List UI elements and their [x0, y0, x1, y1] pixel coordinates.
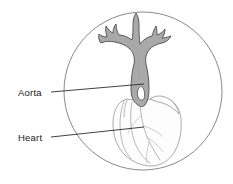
- label-heart: Heart: [18, 132, 42, 143]
- aortic-valve-opening: [137, 87, 144, 101]
- label-aorta: Aorta: [18, 87, 42, 98]
- diagram-canvas: Aorta Heart: [0, 0, 233, 184]
- anatomy-diagram: Aorta Heart: [0, 0, 233, 184]
